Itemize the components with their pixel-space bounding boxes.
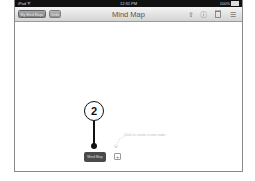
status-bar: iPad ᯤ 12:31 PM 100% <box>15 0 242 7</box>
battery-percent: 100% <box>220 0 230 7</box>
callout-leader-line <box>93 121 94 145</box>
hint-text: Click to create a new node. <box>124 133 166 137</box>
ipad-screen: iPad ᯤ 12:31 PM 100% My Mind Maps Undo M… <box>14 0 243 172</box>
status-time: 12:31 PM <box>15 0 242 7</box>
add-node-button[interactable]: + <box>114 153 121 160</box>
trash-icon[interactable] <box>213 10 222 19</box>
info-icon[interactable]: ⓘ <box>199 10 208 19</box>
callout-number: 2 <box>84 101 104 121</box>
callout-dot <box>91 143 97 149</box>
mind-map-canvas[interactable]: 2 Click to create a new node. Mind Map + <box>15 22 242 172</box>
battery-status: 100% <box>220 0 239 7</box>
hint-arrow-icon <box>114 135 126 149</box>
toolbar: My Mind Maps Undo Mind Map ⇪ ⓘ ☰ <box>15 7 242 22</box>
share-icon[interactable]: ⇪ <box>186 10 195 19</box>
list-icon[interactable]: ☰ <box>228 10 237 19</box>
root-node[interactable]: Mind Map <box>84 152 106 162</box>
battery-icon <box>231 1 239 6</box>
